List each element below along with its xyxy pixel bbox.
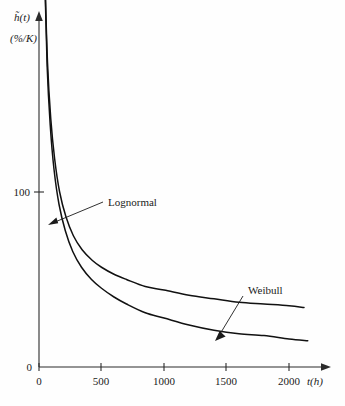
figure-canvas: h̃(t) (%/K) 100 0 0 500 1000 1500 2000 t… <box>0 0 345 406</box>
y-axis-unit-label: (%/K) <box>10 32 37 45</box>
x-tick-label-500: 500 <box>93 375 110 387</box>
x-axis-title-label: t(h) <box>307 375 323 388</box>
lognormal-leader-arrowhead-icon <box>48 218 58 225</box>
series-label-lognormal: Lognormal <box>108 196 157 208</box>
curve-weibull <box>41 0 304 308</box>
chart-plot: h̃(t) (%/K) 100 0 0 500 1000 1500 2000 t… <box>0 0 345 406</box>
x-axis-arrowhead-icon <box>321 363 331 371</box>
x-tick-label-0: 0 <box>36 375 42 387</box>
series-label-weibull: Weibull <box>248 284 283 296</box>
x-tick-label-1500: 1500 <box>215 375 238 387</box>
y-origin-label: 0 <box>27 361 33 373</box>
y-axis-symbol-label: h̃(t) <box>14 11 30 24</box>
x-tick-label-1000: 1000 <box>153 375 176 387</box>
x-tick-label-2000: 2000 <box>278 375 301 387</box>
y-axis-arrowhead-icon <box>35 11 43 21</box>
y-tick-label-100: 100 <box>14 186 31 198</box>
